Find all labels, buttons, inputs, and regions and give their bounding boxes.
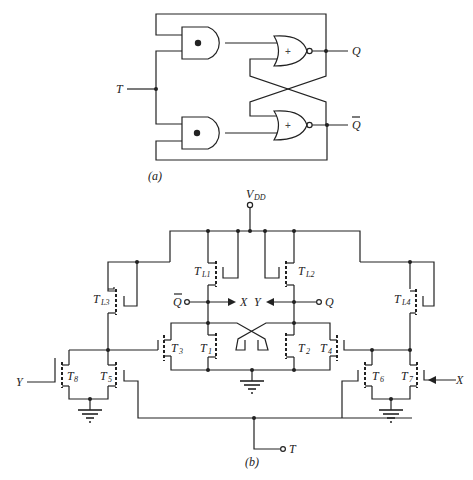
node-qbar-label: Q — [173, 295, 182, 309]
output-x-label: X — [239, 295, 248, 309]
label-tl2: T — [298, 264, 306, 278]
and-gate-bottom — [182, 117, 219, 149]
label-t5: T — [100, 369, 108, 383]
input-t-label: T — [116, 82, 124, 96]
label-t2: T — [298, 341, 306, 355]
label-t7: T — [401, 369, 409, 383]
label-t6: T — [372, 369, 380, 383]
caption-b: (b) — [245, 455, 259, 469]
svg-text:2: 2 — [306, 347, 310, 356]
label-t4: T — [320, 341, 328, 355]
label-tl1: T — [194, 264, 202, 278]
svg-text:4: 4 — [328, 347, 332, 356]
svg-text:8: 8 — [74, 375, 78, 384]
logic-diagram-a: + + Q Q T (a) — [116, 14, 361, 183]
output-y-label: Y — [254, 295, 262, 309]
label-t1: T — [200, 341, 208, 355]
input-t-label-b: T — [289, 442, 297, 456]
t-flip-flop-diagram: + + Q Q T (a) V DD — [0, 0, 473, 480]
svg-text:L1: L1 — [201, 270, 210, 279]
label-tl4: T — [394, 292, 402, 306]
svg-text:L3: L3 — [100, 298, 109, 307]
circuit-diagram-b: V DD T L3 T 8 Y — [16, 187, 464, 469]
svg-text:L4: L4 — [401, 298, 410, 307]
svg-text:DD: DD — [253, 193, 266, 202]
svg-text:+: + — [285, 120, 291, 131]
svg-text:1: 1 — [208, 347, 212, 356]
svg-text:7: 7 — [409, 375, 414, 384]
svg-text:3: 3 — [178, 347, 183, 356]
caption-a: (a) — [148, 169, 162, 183]
svg-text:L2: L2 — [305, 270, 314, 279]
output-qbar-label: Q — [352, 118, 361, 132]
svg-text:6: 6 — [380, 375, 384, 384]
label-t3: T — [171, 341, 179, 355]
svg-text:5: 5 — [108, 375, 112, 384]
svg-text:+: + — [285, 46, 291, 57]
label-tl3: T — [93, 292, 101, 306]
node-q-label: Q — [325, 295, 334, 309]
output-q-label: Q — [352, 44, 361, 58]
input-x-label: X — [455, 373, 464, 387]
input-y-label: Y — [16, 375, 24, 389]
